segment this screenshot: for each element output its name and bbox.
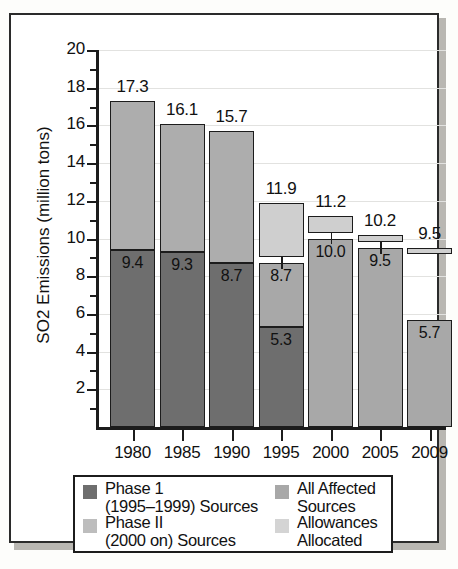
- x-tick-label: 1980: [105, 443, 161, 463]
- y-tick-mark: [87, 239, 96, 241]
- x-tick-label: 1985: [154, 443, 210, 463]
- segment-pointer-tick: [380, 242, 382, 254]
- y-tick-label: 6: [55, 303, 85, 323]
- y-tick-label: 20: [55, 39, 85, 59]
- y-tick-mark-minor: [90, 257, 96, 259]
- legend-entry: AllowancesAllocated: [275, 517, 390, 550]
- y-tick-mark: [87, 163, 96, 165]
- legend-label-line1: Phase II: [105, 513, 163, 531]
- bar-segment: [160, 124, 205, 252]
- segment-pointer-tick: [331, 233, 333, 245]
- x-tick-label: 1990: [204, 443, 260, 463]
- y-tick-mark: [87, 50, 96, 52]
- y-tick-label: 2: [55, 378, 85, 398]
- bar-total-label: 11.2: [303, 192, 359, 212]
- bar-total-label: 10.2: [352, 211, 408, 231]
- legend-swatch: [275, 485, 289, 499]
- x-axis-line: [96, 427, 446, 430]
- y-tick-label: 12: [55, 190, 85, 210]
- x-tick-mark: [331, 430, 333, 441]
- bar-segment: [209, 131, 254, 263]
- bar-segment: [407, 248, 452, 254]
- legend-label: AllowancesAllocated: [297, 514, 377, 549]
- legend-entry: Phase 1(1995–1999) Sources: [83, 483, 278, 516]
- legend-label: Phase 1(1995–1999) Sources: [105, 480, 258, 515]
- bar-total-label: 11.9: [253, 179, 309, 199]
- x-tick-mark: [281, 430, 283, 441]
- y-tick-mark: [87, 125, 96, 127]
- bar-segment: [308, 239, 353, 428]
- y-tick-mark-minor: [90, 333, 96, 335]
- bar-segment: [358, 235, 403, 243]
- legend-label: Phase II(2000 on) Sources: [105, 514, 236, 549]
- legend-column-right: All AffectedSourcesAllowancesAllocated: [275, 483, 390, 551]
- bar-total-label: 16.1: [154, 100, 210, 120]
- bar-segment-label: 10.0: [306, 243, 356, 261]
- legend-label-line2: Allocated: [297, 532, 377, 550]
- legend-swatch: [275, 519, 289, 533]
- bar-segment: [110, 250, 155, 427]
- bar-segment: [209, 263, 254, 427]
- bar-total-label: 17.3: [105, 77, 161, 97]
- x-tick-label: 2005: [352, 443, 408, 463]
- x-tick-mark: [430, 430, 432, 441]
- y-tick-label: 18: [55, 77, 85, 97]
- bar-segment-label: 8.7: [207, 267, 257, 285]
- legend-swatch: [83, 485, 97, 499]
- y-tick-mark-minor: [90, 69, 96, 71]
- y-tick-mark-minor: [90, 295, 96, 297]
- y-tick-mark: [87, 352, 96, 354]
- x-tick-label: 1995: [253, 443, 309, 463]
- y-tick-label: 4: [55, 341, 85, 361]
- legend-label: All AffectedSources: [297, 480, 376, 515]
- legend-entry: Phase II(2000 on) Sources: [83, 517, 278, 550]
- y-tick-mark: [87, 314, 96, 316]
- y-tick-mark-minor: [90, 107, 96, 109]
- x-tick-mark: [232, 430, 234, 441]
- figure-canvas: 2468101214161820 SO2 Emissions (million …: [0, 0, 458, 569]
- bar-segment: [358, 248, 403, 427]
- bar-segment: [259, 203, 304, 258]
- bar-segment-label: 9.4: [108, 254, 158, 272]
- x-tick-label: 2000: [303, 443, 359, 463]
- x-tick-mark: [380, 430, 382, 441]
- y-tick-mark-minor: [90, 408, 96, 410]
- bar-segment-label: 8.7: [256, 267, 306, 285]
- legend-entry: All AffectedSources: [275, 483, 390, 516]
- bar-segment-label: 9.3: [157, 256, 207, 274]
- bar-segment-label: 9.5: [355, 252, 405, 270]
- legend-label-line1: All Affected: [297, 479, 376, 497]
- y-tick-mark-minor: [90, 220, 96, 222]
- x-tick-mark: [133, 430, 135, 441]
- bar-segment: [160, 252, 205, 427]
- legend-column-left: Phase 1(1995–1999) SourcesPhase II(2000 …: [83, 483, 278, 551]
- bar-segment-label: 5.7: [405, 324, 455, 342]
- y-tick-mark: [87, 276, 96, 278]
- gridline: [96, 50, 446, 51]
- y-tick-mark: [87, 201, 96, 203]
- y-axis-title: SO2 Emissions (million tons): [34, 85, 54, 385]
- legend-label-line1: Phase 1: [105, 479, 163, 497]
- legend-label-line1: Allowances: [297, 513, 377, 531]
- y-tick-mark: [87, 389, 96, 391]
- y-tick-mark-minor: [90, 182, 96, 184]
- legend-swatch: [83, 519, 97, 533]
- x-tick-label: 2009: [402, 443, 458, 463]
- bar-segment: [110, 101, 155, 250]
- chart-legend: Phase 1(1995–1999) SourcesPhase II(2000 …: [73, 475, 393, 553]
- y-tick-label: 8: [55, 265, 85, 285]
- segment-pointer-tick: [281, 257, 283, 269]
- bar-segment: [308, 216, 353, 233]
- y-tick-mark-minor: [90, 370, 96, 372]
- y-tick-mark-minor: [90, 144, 96, 146]
- y-tick-label: 14: [55, 152, 85, 172]
- bar-segment-label: 5.3: [256, 331, 306, 349]
- chart-frame: 2468101214161820 SO2 Emissions (million …: [9, 13, 439, 543]
- y-tick-mark: [87, 88, 96, 90]
- bar-total-label: 9.5: [402, 224, 458, 244]
- y-tick-label: 10: [55, 228, 85, 248]
- legend-label-line2: (2000 on) Sources: [105, 532, 236, 550]
- y-axis-line: [96, 50, 99, 430]
- bar-total-label: 15.7: [204, 107, 260, 127]
- y-tick-label: 16: [55, 114, 85, 134]
